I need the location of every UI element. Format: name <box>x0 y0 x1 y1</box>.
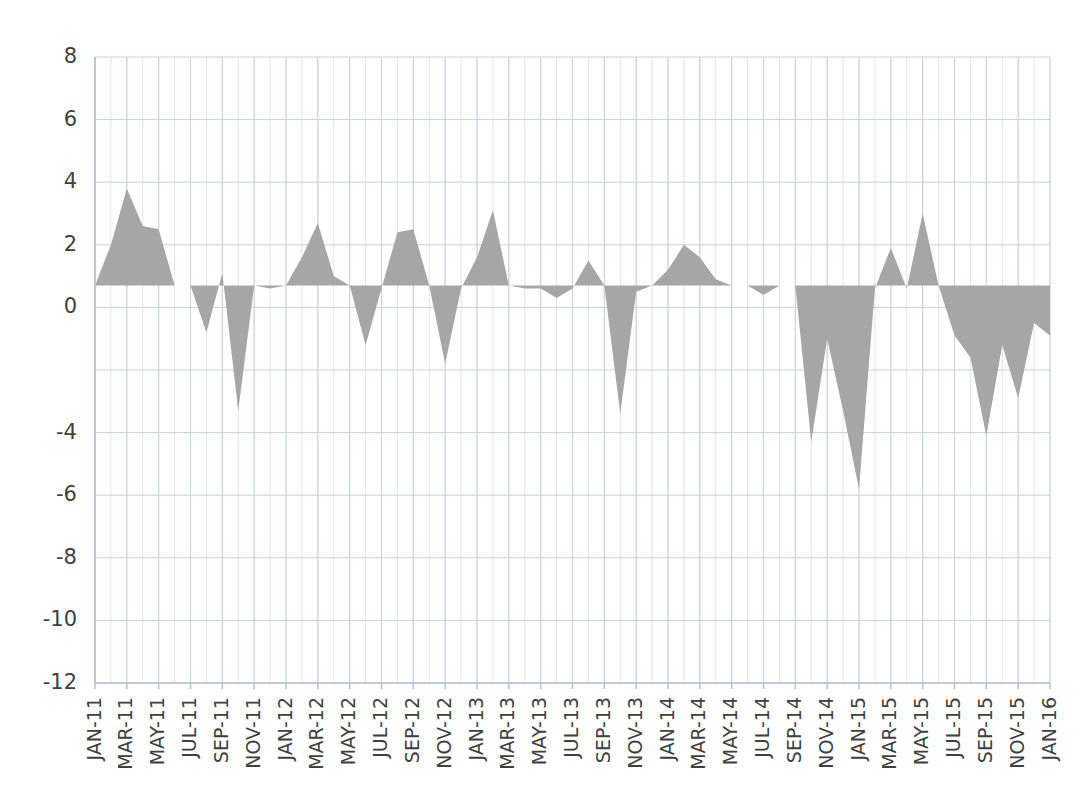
x-tick-label: SEP-11 <box>210 697 232 763</box>
x-tick-label: SEP-13 <box>592 697 614 763</box>
x-tick-label: NOV-12 <box>433 697 455 769</box>
y-tick-label: -4 <box>56 420 77 444</box>
x-tick-label: JAN-16 <box>1038 697 1060 762</box>
x-tick-label: MAY-15 <box>910 697 932 765</box>
x-tick-label: JAN-14 <box>656 697 678 762</box>
chart-canvas: 86420-4-6-8-10-12 JAN-11MAR-11MAY-11JUL-… <box>0 0 1085 808</box>
x-tick-label: JUL-13 <box>560 697 582 759</box>
x-tick-label: JAN-11 <box>83 697 105 762</box>
y-tick-label: -10 <box>43 607 77 631</box>
x-tick-label: JAN-13 <box>465 697 487 762</box>
y-tick-label: -6 <box>56 482 77 506</box>
x-tick-label: MAR-14 <box>687 697 709 770</box>
x-tick-label: SEP-15 <box>974 697 996 763</box>
y-tick-label: 6 <box>64 107 77 131</box>
x-tick-label: NOV-11 <box>242 697 264 769</box>
x-tick-label: JUL-11 <box>178 697 200 759</box>
x-tick-label: NOV-13 <box>624 697 646 769</box>
x-tick-label: SEP-12 <box>401 697 423 763</box>
y-tick-label: -8 <box>56 545 77 569</box>
x-tick-label: MAR-13 <box>496 697 518 770</box>
x-tick-label: NOV-15 <box>1006 697 1028 769</box>
y-tick-label: 4 <box>64 169 77 193</box>
x-tick-label: JUL-15 <box>942 697 964 759</box>
area-chart: 86420-4-6-8-10-12 JAN-11MAR-11MAY-11JUL-… <box>0 0 1085 808</box>
x-tick-label: JUL-14 <box>751 697 773 759</box>
y-tick-label: 0 <box>64 294 77 318</box>
x-tick-label: JAN-12 <box>274 697 296 762</box>
x-tick-marks <box>95 683 1050 689</box>
y-tick-label: 8 <box>64 44 77 68</box>
x-tick-label: MAR-12 <box>305 697 327 770</box>
y-axis-tick-labels: 86420-4-6-8-10-12 <box>43 44 77 694</box>
x-tick-label: NOV-14 <box>815 697 837 769</box>
x-tick-label: MAY-13 <box>528 697 550 765</box>
x-tick-label: MAY-11 <box>146 697 168 765</box>
y-tick-label: 2 <box>64 232 77 256</box>
x-tick-label: MAY-14 <box>719 697 741 765</box>
x-tick-label: MAR-11 <box>114 697 136 770</box>
x-tick-label: MAY-12 <box>337 697 359 765</box>
x-tick-label: MAR-15 <box>878 697 900 770</box>
x-tick-label: JUL-12 <box>369 697 391 759</box>
x-axis-tick-labels: JAN-11MAR-11MAY-11JUL-11SEP-11NOV-11JAN-… <box>83 697 1060 770</box>
x-tick-label: JAN-15 <box>847 697 869 762</box>
x-tick-label: SEP-14 <box>783 697 805 763</box>
y-tick-label: -12 <box>43 670 77 694</box>
